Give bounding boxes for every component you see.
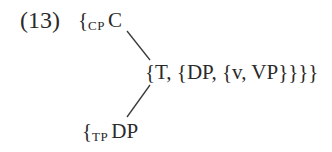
cp-open-brace: { bbox=[78, 8, 88, 32]
t-node: {T, {DP, {v, VP}}}} bbox=[145, 59, 318, 85]
tp-subscript-label: TP bbox=[92, 129, 108, 144]
edge-tp-to-t bbox=[127, 85, 150, 117]
edge-cp-to-t bbox=[127, 31, 150, 60]
cp-subscript-label: CP bbox=[88, 18, 105, 33]
tp-head: DP bbox=[111, 119, 138, 143]
cp-head: C bbox=[108, 8, 122, 32]
tp-node: {TPDP bbox=[82, 118, 138, 147]
tp-open-brace: { bbox=[82, 119, 92, 143]
example-number: (13) bbox=[20, 6, 60, 34]
t-set-expression: {T, {DP, {v, VP}}}} bbox=[145, 60, 318, 84]
cp-node: {CPC bbox=[78, 7, 122, 36]
